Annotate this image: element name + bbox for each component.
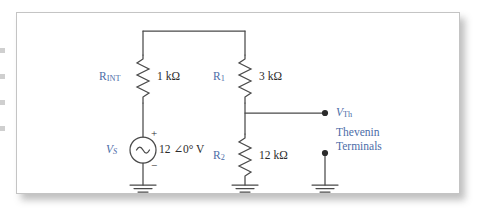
label-source-polarity-positive: +: [151, 128, 157, 139]
margin-mark: [0, 126, 5, 131]
vth-subscript: Th: [343, 110, 352, 119]
label-r1-value: 3 kΩ: [259, 71, 282, 83]
label-vth: VTh: [336, 107, 352, 120]
label-r2-designator: R2: [213, 150, 225, 163]
resistor-r2-zigzag: [239, 134, 251, 185]
caption-thevenin-line1: Thevenin: [336, 127, 379, 139]
margin-mark: [0, 100, 5, 105]
vs-subscript: S: [113, 147, 117, 156]
circuit-schematic: [17, 13, 461, 195]
vth-letter: V: [336, 106, 343, 118]
ground-right: [312, 185, 338, 192]
label-source-value: 12 ∠0° V: [159, 144, 204, 156]
label-rint-value: 1 kΩ: [157, 71, 180, 83]
resistor-rint-zigzag: [137, 55, 149, 103]
ground-middle: [232, 185, 258, 192]
source-sine-glyph: [137, 147, 150, 153]
rint-letter: R: [99, 70, 107, 82]
figure-page: RINT 1 kΩ R1 3 kΩ R2 12 kΩ VS 12 ∠0° V +…: [0, 0, 489, 221]
vs-letter: V: [106, 143, 113, 155]
figure-frame: RINT 1 kΩ R1 3 kΩ R2 12 kΩ VS 12 ∠0° V +…: [16, 12, 460, 194]
terminal-dot-vth-bottom: [322, 150, 328, 156]
caption-thevenin-line2: Terminals: [336, 141, 382, 153]
terminal-dot-vth-top: [322, 110, 328, 116]
r1-subscript: 1: [221, 74, 225, 83]
page-margin-marks: [0, 48, 7, 158]
label-r1-designator: R1: [213, 71, 225, 84]
label-r2-value: 12 kΩ: [259, 150, 288, 162]
r2-letter: R: [213, 149, 221, 161]
label-rint-designator: RINT: [99, 71, 120, 84]
margin-mark: [0, 48, 5, 53]
label-source-designator: VS: [106, 144, 117, 157]
r1-letter: R: [213, 70, 221, 82]
label-source-polarity-negative: −: [151, 160, 157, 171]
margin-mark: [0, 74, 5, 79]
ground-left: [130, 185, 156, 192]
rint-subscript: INT: [107, 74, 121, 83]
r2-subscript: 2: [221, 153, 225, 162]
resistor-r1-zigzag: [239, 55, 251, 103]
